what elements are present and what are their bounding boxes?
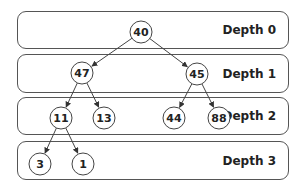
edge-45-to-88 <box>202 84 214 107</box>
tree-node-47: 47 <box>71 62 93 84</box>
edge-11-to-1 <box>66 128 78 153</box>
tree-node-1: 1 <box>72 153 94 175</box>
node-value: 40 <box>133 26 149 39</box>
binary-tree: 4047451113448831 <box>0 0 301 188</box>
tree-node-88: 88 <box>208 107 230 129</box>
node-value: 44 <box>166 112 182 125</box>
tree-nodes: 4047451113448831 <box>29 21 230 175</box>
tree-node-45: 45 <box>186 63 208 85</box>
edge-40-to-45 <box>150 39 188 67</box>
node-value: 88 <box>211 112 226 125</box>
tree-node-3: 3 <box>29 153 51 175</box>
tree-node-44: 44 <box>163 107 185 129</box>
node-value: 45 <box>189 68 204 81</box>
node-value: 1 <box>79 158 87 171</box>
edge-47-to-11 <box>66 83 77 107</box>
tree-edges <box>45 38 214 153</box>
tree-node-13: 13 <box>93 107 115 129</box>
edge-47-to-13 <box>87 83 99 107</box>
edge-45-to-44 <box>180 84 192 108</box>
tree-node-11: 11 <box>50 107 72 129</box>
node-value: 13 <box>96 112 111 125</box>
edge-11-to-3 <box>45 128 56 153</box>
tree-node-40: 40 <box>130 21 152 43</box>
edge-40-to-47 <box>92 38 132 66</box>
node-value: 11 <box>53 112 68 125</box>
node-value: 3 <box>36 158 44 171</box>
node-value: 47 <box>74 67 89 80</box>
